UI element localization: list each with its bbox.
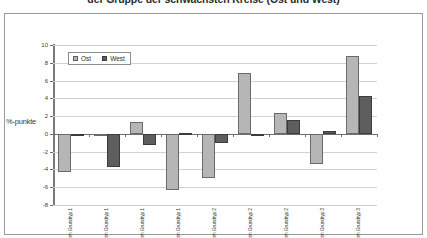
bar-group (233, 45, 269, 205)
bar-west (179, 133, 192, 135)
page-title: der Gruppe der schwächsten Kreise (Ost u… (87, 0, 339, 5)
x-axis-label: 1. Kernstädte im Grundtyp 1 (53, 207, 89, 238)
bar-group (305, 45, 341, 205)
x-tick-mark (305, 134, 306, 137)
bar-group (125, 45, 161, 205)
gridline (53, 205, 377, 206)
bar-ost (310, 134, 323, 164)
x-axis-labels: 1. Kernstädte im Grundtyp 12. Hochverdic… (53, 207, 377, 238)
bar-ost (274, 113, 287, 133)
bar-west (107, 134, 120, 167)
x-tick-mark (125, 134, 126, 137)
bar-west (323, 131, 336, 134)
x-axis-label: 4. Ländliche Kreise im Grundtyp 1 (161, 207, 197, 238)
bar-ost (166, 134, 179, 190)
x-tick-mark (233, 134, 234, 137)
y-tick-label: 10 (41, 42, 48, 48)
legend-entry-ost: Ost (73, 55, 91, 62)
bar-ost (94, 134, 107, 136)
y-tick-mark (50, 205, 53, 206)
bar-group (89, 45, 125, 205)
x-axis-label: 2. Hochverdichtete Kreise im Grundtyp 1 (89, 207, 125, 238)
square-swatch-icon (102, 56, 107, 61)
legend-label: Ost (81, 55, 91, 62)
x-axis-label-text: 8. Ländliche Kreise höherer Dichte im Gr… (320, 208, 325, 238)
x-axis-label-text: 7. Ländliche Kreise im Grundtyp 2 (284, 208, 289, 238)
y-tick-label: -2 (43, 148, 48, 154)
x-axis-label-text: 3. Verdichtete Kreise im Grundtyp 1 (140, 208, 145, 238)
y-tick-label: 8 (45, 59, 48, 65)
bar-west (359, 96, 372, 134)
y-tick-label: -6 (43, 184, 48, 190)
x-axis-label: 5. Kernstädte im Grundtyp 2 (197, 207, 233, 238)
x-axis-label-text: 6. Verdichtete Kreise im Grundtyp 2 (248, 208, 253, 238)
chart-container: %-punkte 1086420-2-4-6-8 1. Kernstädte i… (4, 13, 423, 235)
bar-west (251, 134, 264, 136)
bar-group (341, 45, 377, 205)
bar-group (269, 45, 305, 205)
bar-group (161, 45, 197, 205)
square-swatch-icon (73, 56, 78, 61)
bar-ost (130, 122, 143, 134)
bar-west (71, 134, 84, 136)
chart-title-band: der Gruppe der schwächsten Kreise (Ost u… (0, 0, 427, 13)
bar-west (287, 120, 300, 134)
x-axis-label: 8. Ländliche Kreise höherer Dichte im Gr… (305, 207, 341, 238)
bar-ost (202, 134, 215, 178)
x-axis-label-text: 2. Hochverdichtete Kreise im Grundtyp 1 (104, 208, 109, 238)
x-tick-mark (161, 134, 162, 137)
bar-group (53, 45, 89, 205)
legend-entry-west: West (102, 55, 125, 62)
bar-ost (58, 134, 71, 172)
x-axis-label-text: 5. Kernstädte im Grundtyp 2 (212, 208, 217, 238)
x-tick-mark (341, 134, 342, 137)
legend-label: West (110, 55, 125, 62)
x-axis-label: 6. Verdichtete Kreise im Grundtyp 2 (233, 207, 269, 238)
x-axis-label-text: 1. Kernstädte im Grundtyp 1 (68, 208, 73, 238)
x-axis-label-text: 9. Ländliche Kreise geringerer Dichte im… (356, 208, 361, 238)
y-tick-label: -4 (43, 166, 48, 172)
y-tick-label: 0 (45, 130, 48, 136)
x-axis-label: 3. Verdichtete Kreise im Grundtyp 1 (125, 207, 161, 238)
bar-group (197, 45, 233, 205)
y-axis-title: %-punkte (6, 117, 36, 126)
x-tick-mark (197, 134, 198, 137)
plot-area: 1086420-2-4-6-8 (53, 45, 377, 205)
x-tick-mark (269, 134, 270, 137)
y-tick-label: -8 (43, 202, 48, 208)
bar-west (143, 134, 156, 145)
x-axis-label: 7. Ländliche Kreise im Grundtyp 2 (269, 207, 305, 238)
bar-ost (238, 73, 251, 133)
y-tick-label: 4 (45, 95, 48, 101)
x-tick-mark (377, 134, 378, 137)
y-tick-label: 2 (45, 113, 48, 119)
x-tick-mark (89, 134, 90, 137)
bar-west (215, 134, 228, 143)
bar-ost (346, 56, 359, 134)
x-axis-label-text: 4. Ländliche Kreise im Grundtyp 1 (176, 208, 181, 238)
x-axis-label: 9. Ländliche Kreise geringerer Dichte im… (341, 207, 377, 238)
y-tick-label: 6 (45, 77, 48, 83)
chart-legend: OstWest (68, 52, 131, 65)
